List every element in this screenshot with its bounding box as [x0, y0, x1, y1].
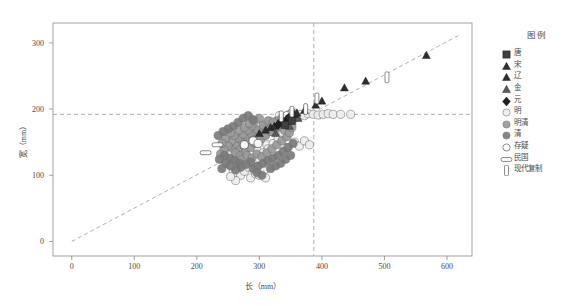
- x-tick-label: 600: [441, 262, 453, 271]
- data-point: [340, 84, 348, 91]
- legend-item-3[interactable]: 金: [500, 81, 574, 93]
- legend-item-1[interactable]: 宋: [500, 58, 574, 70]
- data-point: [422, 51, 430, 58]
- x-tick-label: 400: [316, 262, 328, 271]
- legend-item-0[interactable]: 唐: [500, 46, 574, 58]
- data-point: [212, 143, 223, 147]
- legend: 图例 唐宋辽金元明明清清存疑民国现代复制: [500, 28, 574, 174]
- triangle-icon: [500, 58, 513, 69]
- data-point: [315, 93, 319, 104]
- data-point: [254, 139, 262, 147]
- legend-item-label: 辽: [514, 69, 521, 80]
- data-point: [288, 117, 295, 124]
- y-axis-label: 宽（mm）: [17, 122, 28, 158]
- legend-item-2[interactable]: 辽: [500, 69, 574, 81]
- legend-item-9[interactable]: 民国: [500, 150, 574, 162]
- data-point: [501, 157, 512, 161]
- circle-icon: [500, 127, 513, 138]
- legend-item-label: 民国: [514, 151, 528, 162]
- legend-item-label: 金: [514, 81, 521, 92]
- data-point: [249, 116, 257, 124]
- v-rect-icon: [500, 162, 513, 173]
- data-point: [329, 110, 337, 118]
- legend-item-label: 明: [514, 104, 521, 115]
- data-point: [503, 85, 511, 92]
- data-point: [287, 151, 295, 159]
- data-point: [385, 72, 389, 83]
- data-point: [305, 141, 313, 149]
- plot-canvas: [0, 0, 576, 306]
- diamond-icon: [500, 93, 513, 104]
- data-point: [281, 121, 288, 128]
- data-point: [347, 110, 355, 118]
- x-tick-label: 100: [128, 262, 140, 271]
- square-icon: [500, 46, 513, 57]
- data-point: [279, 111, 283, 122]
- legend-item-8[interactable]: 存疑: [500, 139, 574, 151]
- y-tick-label: 100: [0, 171, 44, 180]
- y-tick-label: 0: [0, 237, 44, 246]
- legend-item-10[interactable]: 现代复制: [500, 162, 574, 174]
- data-point: [200, 151, 211, 155]
- open-circle-icon: [500, 139, 513, 150]
- data-point: [503, 62, 511, 69]
- legend-rows: 唐宋辽金元明明清清存疑民国现代复制: [500, 46, 574, 174]
- data-point: [289, 139, 297, 147]
- legend-item-label: 唐: [514, 46, 521, 57]
- data-point: [304, 104, 308, 115]
- data-point: [337, 110, 345, 118]
- y-tick-label: 300: [0, 38, 44, 47]
- data-point: [240, 141, 248, 149]
- x-axis-label: 长（mm）: [245, 280, 281, 291]
- legend-item-label: 宋: [514, 58, 521, 69]
- legend-title: 图例: [500, 28, 574, 40]
- data-point: [505, 165, 509, 176]
- triangle-icon: [500, 69, 513, 80]
- legend-item-7[interactable]: 清: [500, 127, 574, 139]
- legend-item-5[interactable]: 明: [500, 104, 574, 116]
- data-point: [258, 171, 266, 179]
- legend-item-6[interactable]: 明清: [500, 116, 574, 128]
- legend-item-label: 元: [514, 93, 521, 104]
- data-point: [218, 165, 226, 173]
- legend-item-label: 存疑: [514, 139, 528, 150]
- data-point: [503, 74, 511, 81]
- triangle-icon: [500, 81, 513, 92]
- data-point: [362, 77, 370, 84]
- y-tick-label: 200: [0, 105, 44, 114]
- legend-item-4[interactable]: 元: [500, 92, 574, 104]
- circle-icon: [500, 104, 513, 115]
- legend-item-label: 现代复制: [514, 162, 542, 173]
- x-tick-label: 0: [70, 262, 74, 271]
- data-point: [227, 162, 235, 170]
- data-point: [214, 131, 222, 139]
- legend-item-label: 明清: [514, 116, 528, 127]
- x-tick-label: 200: [191, 262, 203, 271]
- legend-item-label: 清: [514, 127, 521, 138]
- x-tick-label: 500: [378, 262, 390, 271]
- x-tick-label: 300: [253, 262, 265, 271]
- data-point: [290, 106, 294, 117]
- circle-icon: [500, 116, 513, 127]
- data-points: [200, 51, 430, 184]
- h-rect-icon: [500, 151, 513, 162]
